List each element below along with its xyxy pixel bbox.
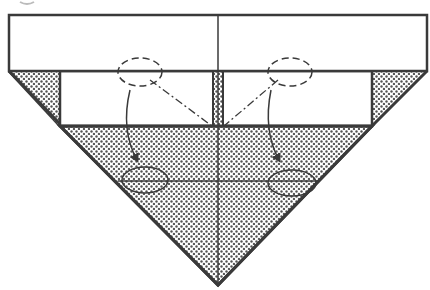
bottom-shaded-triangle xyxy=(60,126,372,285)
diagram-canvas xyxy=(0,0,430,290)
step-number-circle xyxy=(20,2,34,4)
origami-diagram xyxy=(0,0,430,290)
